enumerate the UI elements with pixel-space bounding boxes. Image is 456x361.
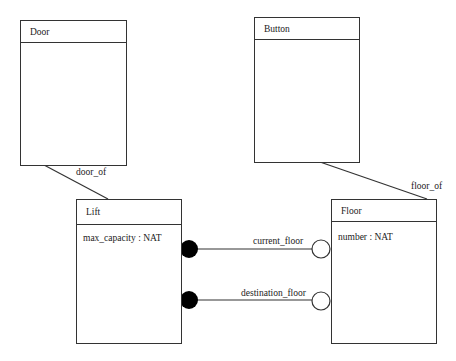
- class-lift-header: Lift: [77, 200, 181, 225]
- class-lift[interactable]: Lift max_capacity : NAT: [76, 199, 182, 344]
- class-floor[interactable]: Floor number : NAT: [331, 199, 437, 344]
- class-door-name: Door: [30, 27, 50, 37]
- class-floor-attribute: number : NAT: [332, 222, 436, 242]
- destination-floor-label: destination_floor: [241, 288, 306, 298]
- class-door[interactable]: Door: [20, 20, 127, 166]
- class-floor-name: Floor: [341, 206, 362, 216]
- destination-floor-filled-circle-icon: [180, 291, 198, 309]
- class-door-header: Door: [21, 21, 126, 43]
- class-button[interactable]: Button: [254, 17, 360, 163]
- class-lift-attribute: max_capacity : NAT: [77, 225, 181, 243]
- current-floor-filled-circle-icon: [180, 240, 198, 258]
- destination-floor-open-circle-icon: [312, 292, 330, 310]
- door-of-label: door_of: [76, 167, 106, 177]
- current-floor-label: current_floor: [253, 236, 303, 246]
- class-lift-name: Lift: [86, 207, 100, 217]
- class-button-name: Button: [264, 24, 290, 34]
- current-floor-open-circle-icon: [312, 240, 330, 258]
- floor-of-label: floor_of: [411, 181, 442, 191]
- class-floor-header: Floor: [332, 200, 436, 222]
- class-button-header: Button: [255, 18, 359, 40]
